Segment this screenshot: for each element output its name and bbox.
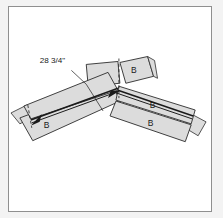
peak-board-right: B (120, 57, 158, 84)
label-b-left-lower: B (44, 120, 50, 130)
diagram-frame: B B B B (8, 6, 212, 212)
dimension-label: 28 3/4" (40, 56, 66, 65)
diagram-page: B B B B (0, 0, 223, 218)
framing-diagram: B B B B (9, 7, 211, 211)
label-b-top-right: B (131, 65, 137, 75)
label-b-right-lower: B (148, 118, 154, 128)
